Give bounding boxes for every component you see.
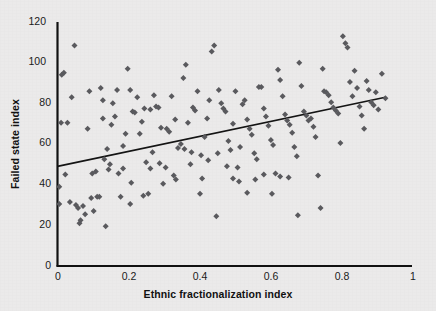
data-point — [181, 146, 187, 152]
data-point — [340, 33, 346, 39]
data-point — [269, 191, 275, 197]
y-axis-title-container: Failed state index — [9, 74, 25, 214]
data-point — [64, 120, 70, 126]
data-point — [163, 164, 169, 170]
data-point — [254, 156, 260, 162]
data-point — [67, 199, 73, 205]
data-point — [127, 87, 133, 93]
data-point — [252, 177, 258, 183]
data-point — [328, 99, 334, 105]
data-point — [110, 100, 116, 106]
data-point — [125, 66, 131, 72]
data-point — [108, 122, 114, 128]
data-point — [237, 144, 243, 150]
y-tick-label-120: 120 — [20, 15, 46, 27]
y-tick-label-40: 40 — [25, 177, 51, 189]
data-point — [199, 176, 205, 182]
data-point — [318, 205, 324, 211]
data-point — [209, 48, 215, 54]
data-point — [213, 213, 219, 219]
data-point — [62, 172, 68, 178]
data-point — [139, 119, 145, 125]
y-tick-label-100: 100 — [20, 55, 46, 67]
data-point — [157, 160, 163, 166]
data-point — [235, 164, 241, 170]
x-tick-label-0-4: 0.4 — [185, 270, 215, 282]
data-point — [265, 123, 271, 129]
data-point — [147, 106, 153, 112]
data-point — [69, 94, 75, 100]
data-point — [143, 159, 149, 165]
data-point — [114, 87, 120, 93]
data-point — [347, 79, 353, 85]
y-tick-label-20: 20 — [25, 218, 51, 230]
x-tick-label-1: 1 — [398, 270, 428, 282]
data-point — [230, 176, 236, 182]
data-point — [296, 60, 302, 66]
data-point — [141, 105, 147, 111]
data-point — [197, 191, 203, 197]
data-point — [298, 83, 304, 89]
data-point — [295, 212, 301, 218]
data-point — [123, 131, 129, 137]
data-point — [183, 62, 189, 68]
data-point — [379, 71, 385, 77]
data-point — [127, 201, 133, 207]
data-point — [354, 85, 360, 91]
data-point — [268, 137, 274, 143]
data-point — [282, 112, 288, 118]
data-point — [86, 88, 92, 94]
data-point — [244, 190, 250, 196]
y-tick-label-80: 80 — [25, 96, 51, 108]
data-point — [118, 194, 124, 200]
data-point — [218, 100, 224, 106]
data-point — [88, 195, 94, 201]
data-point — [151, 92, 157, 98]
data-point — [187, 161, 193, 167]
data-point — [337, 140, 343, 146]
x-axis-title: Ethnic fractionalization index — [0, 288, 436, 300]
data-point — [373, 89, 379, 95]
data-point — [232, 88, 238, 94]
data-point — [72, 42, 78, 48]
data-point — [349, 93, 355, 99]
x-tick-label-0-2: 0.2 — [114, 270, 144, 282]
data-point — [315, 173, 321, 179]
data-point — [82, 211, 88, 217]
data-point — [277, 174, 283, 180]
data-point — [150, 149, 156, 155]
data-point — [185, 120, 191, 126]
x-tick-label-0-6: 0.6 — [256, 270, 286, 282]
data-point — [273, 170, 279, 176]
data-point — [366, 87, 372, 93]
data-point — [120, 165, 126, 171]
data-point — [227, 147, 233, 153]
data-point — [275, 67, 281, 73]
data-point — [216, 87, 222, 93]
data-point — [160, 181, 166, 187]
data-point — [211, 42, 217, 48]
data-point — [263, 114, 269, 120]
data-point — [180, 75, 186, 81]
data-point — [120, 143, 126, 149]
data-point — [189, 149, 195, 155]
data-point — [134, 94, 140, 100]
data-point — [85, 126, 91, 132]
data-point — [225, 138, 231, 144]
data-point — [128, 180, 134, 186]
data-point — [249, 132, 255, 138]
data-point — [261, 105, 267, 111]
data-point — [375, 106, 381, 112]
x-tick-label-0-8: 0.8 — [327, 270, 357, 282]
data-point — [158, 125, 164, 131]
scatter-chart-figure: 0 20 40 60 80 100 120 0 0.2 0.4 0.6 0.8 … — [0, 0, 436, 311]
data-point — [310, 124, 316, 130]
data-point — [204, 116, 210, 122]
data-point — [206, 97, 212, 103]
data-point — [352, 68, 358, 74]
data-point — [291, 144, 297, 150]
data-point — [215, 150, 221, 156]
data-point — [137, 131, 143, 137]
x-tick-label-0: 0 — [43, 270, 73, 282]
data-point — [294, 153, 300, 159]
